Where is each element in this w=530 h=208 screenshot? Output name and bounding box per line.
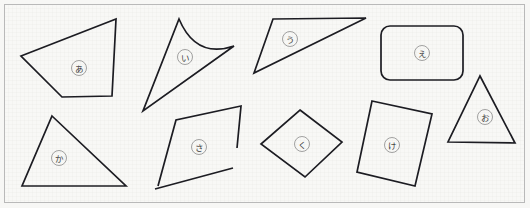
shape-ku-label: く xyxy=(298,140,307,150)
shape-u-label: う xyxy=(286,35,295,45)
shape-a-label: あ xyxy=(75,64,84,74)
shape-sa-label: さ xyxy=(195,143,204,153)
graph-grid xyxy=(4,4,525,203)
shape-e-label: え xyxy=(418,49,427,59)
shape-i-label: い xyxy=(181,53,190,63)
shape-o-label: お xyxy=(481,113,490,123)
worksheet-canvas: あ い う え お か xyxy=(0,0,530,208)
shape-ka-label: か xyxy=(55,154,64,164)
shape-ke-label: け xyxy=(388,141,397,151)
shapes-figure: あ い う え お か xyxy=(0,0,530,208)
